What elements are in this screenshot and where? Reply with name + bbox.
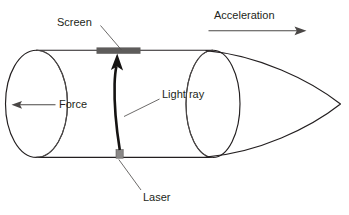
light-ray-curve [115,67,120,151]
rocket-light-ray-diagram: Screen Acceleration Force Light ray Lase… [0,0,349,215]
laser-leader-line [119,160,141,191]
light-ray-callout: Light ray [124,88,205,117]
nose-base-far-arc [186,50,213,157]
nose-cone [206,51,341,157]
force-callout: Force [12,98,88,110]
light-ray-leader-line [124,99,160,117]
diagram-canvas: Screen Acceleration Force Light ray Lase… [0,0,349,215]
light-ray-path [111,54,123,150]
laser-emitter [116,150,123,159]
laser-callout: Laser [119,160,171,203]
force-label: Force [59,98,87,110]
screen-leader-line [101,26,122,51]
rocket-body [6,50,341,157]
screen-bar [97,47,141,53]
laser-label: Laser [143,191,171,203]
acceleration-label: Acceleration [214,9,275,21]
acceleration-callout: Acceleration [209,9,307,35]
light-ray-label: Light ray [162,88,205,100]
screen-callout: Screen [57,16,122,50]
screen-label: Screen [57,16,92,28]
